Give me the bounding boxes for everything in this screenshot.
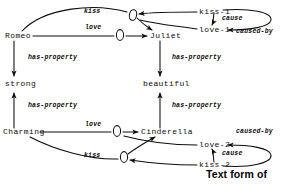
node-love-2: love-2	[199, 140, 230, 149]
figure-caption: Text form of	[206, 168, 267, 180]
relation-node-kiss-bottom	[120, 152, 127, 163]
edge-kissrel-juliet	[137, 18, 152, 30]
edge-label-love-bottom: love	[85, 121, 101, 128]
edge-label-caused-by-bottom: caused-by	[236, 128, 273, 135]
edge-kiss1-kissrel	[139, 12, 197, 14]
node-charming: Charming	[3, 127, 45, 136]
relation-node-love-bottom	[113, 126, 120, 137]
edge-label-kiss-bottom: kiss	[84, 152, 100, 159]
edge-label-has-property-tl: has-property	[28, 54, 77, 61]
edge-label-cause-top: cause	[222, 15, 243, 22]
edge-label-kiss-top: kiss	[84, 8, 100, 15]
node-juliet: Juliet	[150, 31, 181, 40]
relation-node-love-top	[116, 30, 123, 41]
edge-label-caused-by-top: caused-by	[236, 28, 273, 35]
edge-romeo-kiss	[22, 8, 127, 31]
edge-love2-cinderella	[124, 136, 197, 145]
edge-label-has-property-br: has-property	[172, 102, 221, 109]
relation-node-kiss-top	[128, 9, 137, 21]
node-beautiful: beautiful	[143, 79, 190, 88]
node-cinderella: Cinderella	[141, 127, 193, 136]
edge-label-has-property-bl: has-property	[28, 102, 77, 109]
edge-label-love-top: love	[85, 24, 101, 31]
semantic-network-diagram: Romeo Juliet strong beautiful Charming C…	[0, 0, 290, 184]
node-romeo: Romeo	[5, 31, 31, 40]
node-strong: strong	[5, 79, 36, 88]
edge-charming-kiss	[30, 137, 118, 159]
node-love-1: love-1	[199, 25, 230, 34]
edge-label-cause-bottom: cause	[222, 150, 243, 157]
edge-kiss2-kissrel	[130, 160, 197, 165]
edge-label-has-property-tr: has-property	[172, 54, 221, 61]
